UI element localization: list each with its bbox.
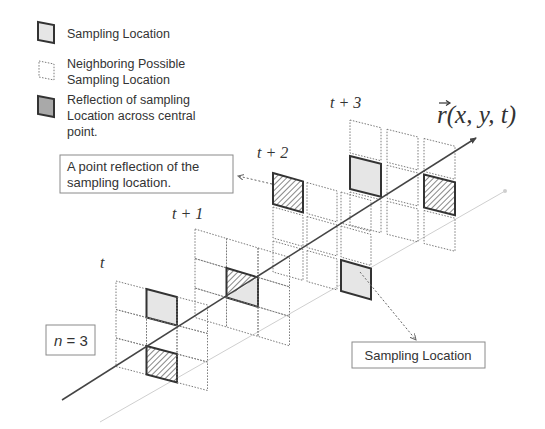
reflection-callout-arrow xyxy=(238,176,272,184)
neighbor-cell xyxy=(424,139,455,180)
n-box: n = 3 xyxy=(46,325,95,355)
neighbor-cell xyxy=(195,288,227,327)
neighbor-cell xyxy=(307,251,337,290)
sampling-cell xyxy=(147,289,178,325)
sampling-diagram: Sampling Location Neighboring Possible S… xyxy=(0,0,545,429)
sampling-callout-arrow xyxy=(360,272,416,340)
neighbor-cell xyxy=(273,207,303,246)
neighbor-cell xyxy=(195,229,227,268)
reflection-callout: A point reflection of the sampling locat… xyxy=(60,155,272,193)
legend-item-neighbor: Neighboring Possible Sampling Location xyxy=(39,57,189,87)
vector-label: r(x, y, t) xyxy=(437,101,516,130)
neighbor-cell xyxy=(387,201,418,242)
time-slice-grid xyxy=(350,120,455,251)
reflection-cell xyxy=(147,346,178,382)
time-label-t2: t + 2 xyxy=(257,144,288,161)
neighbor-cell xyxy=(116,310,147,346)
neighbor-cell xyxy=(387,165,418,206)
neighbor-cell xyxy=(424,211,455,252)
reflection-cell xyxy=(424,175,455,216)
neighbor-cell xyxy=(341,192,371,231)
neighbor-cell xyxy=(258,277,290,316)
legend: Sampling Location Neighboring Possible S… xyxy=(38,22,199,139)
neighbor-cell xyxy=(177,325,208,361)
legend-item-sampling: Sampling Location xyxy=(38,22,170,43)
vector-symbol: r xyxy=(437,101,447,128)
time-label-t1: t + 1 xyxy=(172,205,203,222)
n-variable: n xyxy=(54,332,62,349)
sampling-cell xyxy=(350,156,381,197)
time-label-t: t xyxy=(100,254,105,271)
svg-text:n = 3: n = 3 xyxy=(54,332,88,349)
n-value: = 3 xyxy=(62,332,87,349)
sampling-callout-text: Sampling Location xyxy=(365,348,472,363)
neighbor-cell xyxy=(258,248,290,287)
neighbor-cell xyxy=(177,354,208,390)
reflection-cell xyxy=(273,173,303,212)
neighbor-cell xyxy=(116,281,147,317)
neighbor-cell-icon xyxy=(39,61,54,80)
time-slice-grid xyxy=(195,229,290,346)
neighbor-cell xyxy=(273,241,303,280)
neighbor-cell xyxy=(195,259,227,298)
legend-label: Sampling Location xyxy=(67,27,170,41)
neighbor-cell xyxy=(341,226,371,265)
neighbor-cell xyxy=(307,183,337,222)
neighbor-cell xyxy=(387,129,418,170)
neighbor-cell xyxy=(177,297,208,333)
vector-args: (x, y, t) xyxy=(447,101,516,129)
legend-label: Reflection of sampling Location across c… xyxy=(67,93,199,139)
sampling-cell xyxy=(341,260,371,299)
time-slice-grid xyxy=(116,281,208,390)
svg-text:r(x, y, t): r(x, y, t) xyxy=(437,101,516,129)
time-label-t3: t + 3 xyxy=(330,94,361,111)
legend-label: Neighboring Possible Sampling Location xyxy=(67,57,189,87)
sampling-cell-icon xyxy=(38,22,54,43)
legend-item-reflection: Reflection of sampling Location across c… xyxy=(38,93,199,139)
reflection-cell-icon xyxy=(38,96,54,117)
neighbor-cell xyxy=(258,307,290,346)
center-cell xyxy=(227,268,259,307)
neighbor-cell xyxy=(350,120,381,161)
